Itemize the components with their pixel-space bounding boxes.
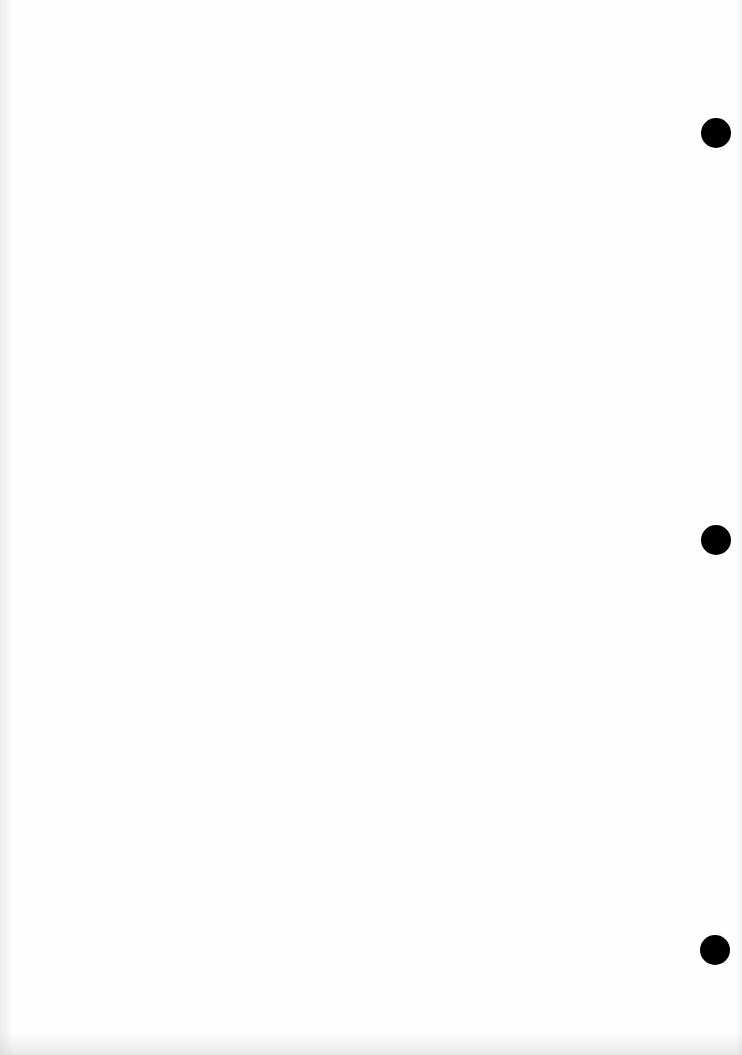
punch-hole-bottom xyxy=(700,935,730,965)
punch-hole-middle xyxy=(701,525,731,555)
bottom-edge-shadow xyxy=(0,1033,742,1055)
punch-hole-top xyxy=(701,118,731,148)
left-edge-shadow xyxy=(0,0,14,1055)
scanned-page xyxy=(0,0,742,1055)
right-edge-shadow xyxy=(736,0,742,1055)
